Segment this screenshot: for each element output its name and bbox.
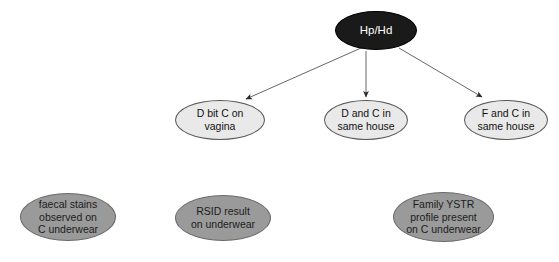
node-hypothesis-d-and-c-same-house[interactable]: D and C in same house xyxy=(324,100,408,140)
node-root-hp-hd[interactable]: Hp/Hd xyxy=(335,11,417,50)
node-hypothesis-f-and-c-same-house[interactable]: F and C in same house xyxy=(464,100,548,140)
node-hypothesis-label: D and C in same house xyxy=(325,107,407,133)
node-hypothesis-label: D bit C on vagina xyxy=(176,107,264,133)
node-evidence-label: Family YSTR profile present on C underwe… xyxy=(394,198,493,236)
edge-root-to-f-and-c xyxy=(399,48,482,97)
node-evidence-faecal-stains[interactable]: faecal stains observed on C underwear xyxy=(20,193,116,241)
node-hypothesis-d-bit-c-on-vagina[interactable]: D bit C on vagina xyxy=(175,100,265,140)
node-evidence-family-ystr-profile[interactable]: Family YSTR profile present on C underwe… xyxy=(393,192,494,242)
diagram-canvas: Hp/Hd D bit C on vagina D and C in same … xyxy=(0,0,559,262)
edge-root-to-d-bit-c xyxy=(246,48,361,99)
node-root-label: Hp/Hd xyxy=(336,23,416,37)
node-evidence-rsid-result[interactable]: RSID result on underwear xyxy=(175,195,271,241)
node-evidence-label: faecal stains observed on C underwear xyxy=(21,198,115,236)
node-hypothesis-label: F and C in same house xyxy=(465,107,547,133)
node-evidence-label: RSID result on underwear xyxy=(176,205,270,231)
